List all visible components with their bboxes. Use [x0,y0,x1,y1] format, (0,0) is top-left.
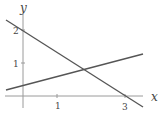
y-tick-label-1: 1 [13,59,19,69]
x-tick-label-3: 3 [122,102,128,112]
x-axis-label: x [151,90,158,104]
coordinate-diagram: y x 1 3 1 2 [0,0,160,116]
y-tick-label-2: 2 [13,26,19,36]
y-axis-label: y [19,1,27,15]
increasing-line [6,54,143,90]
x-tick-label-1: 1 [55,101,61,111]
decreasing-line [6,20,143,107]
